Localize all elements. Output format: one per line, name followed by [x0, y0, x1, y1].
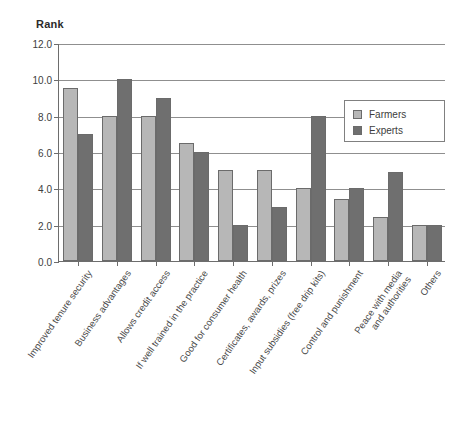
bar-farmers — [334, 199, 349, 261]
bar-group — [141, 44, 171, 261]
bar-farmers — [179, 143, 194, 261]
chart-title: Rank — [36, 18, 64, 30]
bar-group — [63, 44, 93, 261]
legend: Farmers Experts — [344, 100, 445, 142]
x-tick-mark — [388, 261, 389, 266]
x-tick-mark — [233, 261, 234, 266]
legend-label-experts: Experts — [369, 125, 403, 136]
x-tick-mark — [194, 261, 195, 266]
bar-experts — [156, 98, 171, 262]
y-tick-mark — [54, 262, 59, 263]
bars-layer — [59, 44, 445, 261]
bar-farmers — [296, 188, 311, 261]
bar-group — [412, 44, 442, 261]
x-axis-label: Input subsidies (free drip kits) — [246, 268, 326, 376]
x-axis-labels: Improved tenure securityBusiness advanta… — [0, 268, 470, 425]
bar-experts — [117, 79, 132, 261]
bar-farmers — [218, 170, 233, 261]
y-tick-label: 8.0 — [38, 111, 52, 122]
bar-farmers — [257, 170, 272, 261]
bar-experts — [194, 152, 209, 261]
bar-group — [257, 44, 287, 261]
bar-farmers — [63, 88, 78, 261]
legend-item-farmers: Farmers — [353, 106, 444, 122]
y-tick-label: 4.0 — [38, 184, 52, 195]
bar-group — [218, 44, 248, 261]
x-tick-mark — [78, 261, 79, 266]
bar-farmers — [373, 217, 388, 261]
x-tick-mark — [117, 261, 118, 266]
x-tick-mark — [311, 261, 312, 266]
bar-farmers — [141, 116, 156, 261]
y-tick-label: 6.0 — [38, 148, 52, 159]
x-axis-label: Certificates, awards, prizes — [213, 268, 287, 368]
x-tick-mark — [349, 261, 350, 266]
bar-experts — [349, 188, 364, 261]
bar-chart: Rank 0.02.04.06.08.010.012.0 Farmers Exp… — [0, 0, 470, 425]
x-axis-label: If well trained in the practice — [134, 268, 211, 371]
bar-farmers — [102, 116, 117, 261]
bar-experts — [311, 116, 326, 261]
legend-swatch-experts-icon — [353, 126, 362, 135]
x-axis-label: Good for consumer health — [177, 268, 249, 364]
bar-group — [102, 44, 132, 261]
x-tick-mark — [156, 261, 157, 266]
bar-group — [373, 44, 403, 261]
bar-experts — [78, 134, 93, 261]
bar-group — [296, 44, 326, 261]
bar-experts — [388, 172, 403, 261]
bar-farmers — [412, 225, 427, 261]
legend-label-farmers: Farmers — [369, 109, 406, 120]
bar-group — [179, 44, 209, 261]
legend-swatch-farmers-icon — [353, 110, 362, 119]
x-tick-mark — [272, 261, 273, 266]
bar-experts — [272, 207, 287, 262]
y-tick-label: 12.0 — [33, 39, 52, 50]
x-axis-label: Improved tenure security — [25, 268, 94, 360]
y-tick-label: 0.0 — [38, 257, 52, 268]
legend-item-experts: Experts — [353, 122, 444, 138]
plot-area: 0.02.04.06.08.010.012.0 — [58, 44, 445, 262]
y-tick-label: 2.0 — [38, 220, 52, 231]
x-axis-label: Others — [417, 268, 442, 298]
x-tick-mark — [427, 261, 428, 266]
bar-group — [334, 44, 364, 261]
bar-experts — [233, 225, 248, 261]
y-tick-label: 10.0 — [33, 75, 52, 86]
bar-experts — [427, 225, 442, 261]
